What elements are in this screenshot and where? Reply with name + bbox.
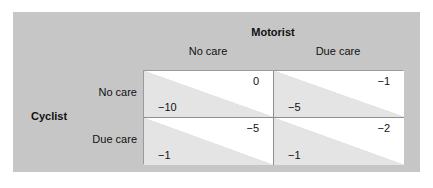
row-header-no-care: No care — [73, 86, 137, 98]
column-player-payoff: −5 — [246, 122, 259, 134]
row-header-due-care: Due care — [73, 133, 137, 145]
row-player-payoff: −5 — [288, 101, 301, 113]
figure-panel: Motorist No care Due care Cyclist No car… — [13, 12, 420, 172]
row-player-payoff: −10 — [158, 101, 177, 113]
row-player-title: Cyclist — [31, 110, 85, 122]
matrix-cell: 0 −10 — [144, 71, 274, 118]
row-player-payoff: −1 — [288, 149, 301, 161]
column-player-payoff: −1 — [377, 75, 390, 87]
matrix-cell: −5 −1 — [144, 118, 274, 165]
payoff-matrix: 0 −10 −1 −5 −5 −1 −2 −1 — [143, 70, 403, 164]
column-player-payoff: 0 — [253, 75, 259, 87]
row-player-payoff: −1 — [158, 149, 171, 161]
payoff-matrix-figure: Motorist No care Due care Cyclist No car… — [0, 0, 433, 188]
matrix-cell: −1 −5 — [274, 71, 404, 118]
column-player-payoff: −2 — [377, 122, 390, 134]
matrix-cell: −2 −1 — [274, 118, 404, 165]
column-header-no-care: No care — [143, 45, 273, 57]
column-header-due-care: Due care — [273, 45, 403, 57]
column-player-title: Motorist — [143, 26, 403, 38]
